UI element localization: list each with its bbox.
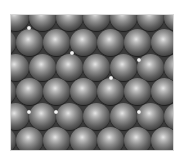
interstitial-bright-spot: [137, 110, 141, 114]
atom-sphere: [151, 78, 174, 105]
atom-sphere: [11, 103, 29, 130]
atom-sphere: [11, 127, 16, 151]
atom-sphere: [97, 127, 124, 151]
atom-sphere: [16, 78, 43, 105]
atom-sphere: [83, 54, 110, 81]
atom-sphere: [43, 78, 70, 105]
atom-sphere: [16, 127, 43, 151]
atom-sphere: [151, 29, 174, 56]
atom-sphere: [11, 29, 16, 56]
atom-sphere: [29, 54, 56, 81]
atom-sphere: [164, 54, 174, 81]
atom-sphere: [83, 15, 110, 31]
atom-sphere: [137, 103, 164, 130]
atom-sphere: [56, 54, 83, 81]
atom-sphere: [11, 54, 29, 81]
atom-sphere: [29, 15, 56, 31]
atom-sphere: [16, 29, 43, 56]
atom-sphere: [70, 78, 97, 105]
atom-sphere: [11, 78, 16, 105]
atom-sphere: [97, 29, 124, 56]
atom-sphere: [110, 103, 137, 130]
atom-sphere: [110, 54, 137, 81]
atom-sphere: [137, 54, 164, 81]
atom-sphere: [56, 103, 83, 130]
atom-sphere: [43, 29, 70, 56]
interstitial-bright-spot: [27, 26, 31, 30]
atom-sphere: [110, 15, 137, 31]
atom-sphere: [97, 78, 124, 105]
atom-sphere: [70, 127, 97, 151]
interstitial-bright-spot: [54, 110, 58, 114]
atom-sphere: [43, 127, 70, 151]
interstitial-bright-spot: [109, 76, 113, 80]
atom-sphere: [124, 127, 151, 151]
atom-sphere: [56, 15, 83, 31]
atom-sphere: [11, 15, 29, 31]
atom-sphere: [151, 127, 174, 151]
interstitial-bright-spot: [27, 110, 31, 114]
atom-sphere: [124, 78, 151, 105]
atom-sphere: [29, 103, 56, 130]
atom-sphere: [164, 103, 174, 130]
atom-sphere: [124, 29, 151, 56]
atom-sphere: [137, 15, 164, 31]
interstitial-bright-spot: [137, 58, 141, 62]
atom-packing-figure: Close-packed layer of spheres (atomic su…: [11, 15, 173, 150]
atom-sphere: [83, 103, 110, 130]
interstitial-bright-spot: [70, 51, 74, 55]
